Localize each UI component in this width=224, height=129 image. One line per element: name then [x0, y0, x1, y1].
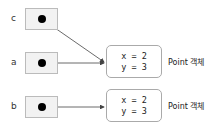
point-object-1: x = 2 y = 3	[106, 45, 162, 78]
point-object-2: x = 2 y = 3	[106, 89, 162, 122]
variable-box-a	[25, 52, 58, 74]
variable-label-a: a	[11, 57, 17, 67]
variable-box-c	[25, 8, 58, 30]
reference-dot	[38, 103, 46, 111]
object-label-2: Point 객체	[168, 100, 204, 111]
field-x: x = 2	[107, 51, 161, 62]
variable-label-b: b	[11, 101, 17, 111]
field-y: y = 3	[107, 106, 161, 117]
reference-dot	[38, 59, 46, 67]
field-x: x = 2	[107, 95, 161, 106]
reference-dot	[38, 15, 46, 23]
variable-box-b	[25, 96, 58, 118]
variable-label-c: c	[11, 13, 16, 23]
object-label-1: Point 객체	[168, 56, 204, 67]
field-y: y = 3	[107, 62, 161, 73]
